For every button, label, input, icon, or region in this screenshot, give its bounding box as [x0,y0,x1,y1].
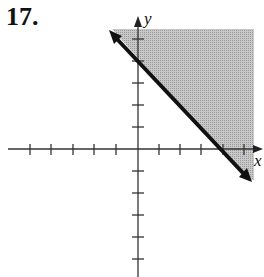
y-axis-arrow-icon [134,16,142,27]
coordinate-plane: y x [0,0,264,277]
x-axis-label: x [253,151,262,170]
y-axis-label: y [142,9,152,28]
